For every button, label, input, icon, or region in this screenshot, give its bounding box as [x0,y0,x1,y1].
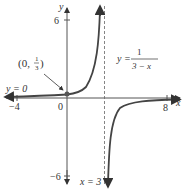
annotation-arrow [44,74,63,90]
x-tick-label-neg4: −4 [9,101,20,112]
x-axis-label: x [175,97,181,108]
function-graph: y 6 −6 −4 8 x 0 y = 0 x = 3 y = 1 3 − x … [0,0,187,189]
function-label-prefix: y = [116,53,131,64]
point-label-close: ) [40,57,44,70]
function-label-numerator: 1 [137,47,142,57]
origin-label: 0 [58,101,63,112]
point-label-open: (0, [18,57,30,70]
y-tick-label-6: 6 [54,15,59,26]
y-axis-label: y [58,1,64,12]
function-label-denominator: 3 − x [131,61,151,71]
vertical-asymptote-label: x = 3 [79,176,101,187]
y-intercept-point [65,92,70,97]
point-label-denominator: 3 [35,64,39,72]
y-tick-label-neg6: −6 [50,171,61,182]
x-tick-label-8: 8 [163,102,168,113]
horizontal-asymptote-label: y = 0 [5,83,27,94]
point-label-numerator: 1 [35,55,39,63]
